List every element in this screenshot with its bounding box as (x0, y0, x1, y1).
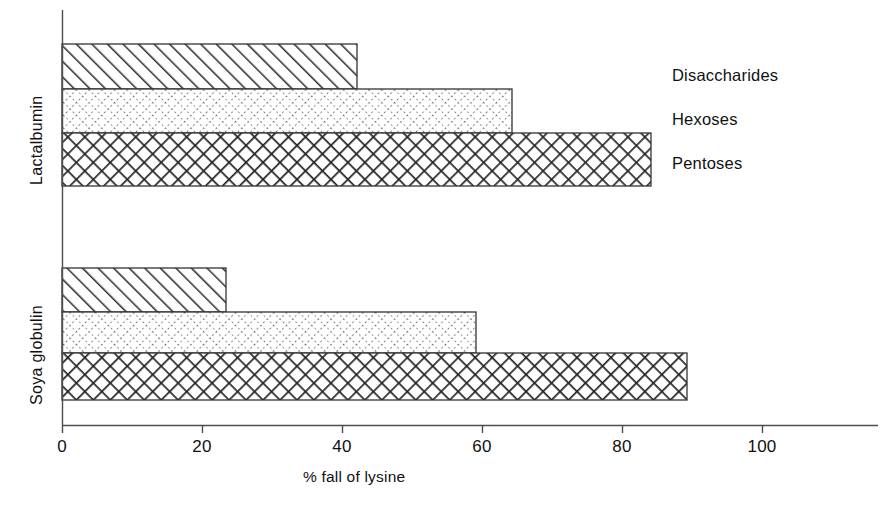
legend-item-disaccharides: Disaccharides (672, 53, 882, 97)
group-label-lactalbumin: Lactalbumin (28, 95, 46, 185)
legend-swatches (651, 58, 673, 168)
legend: Disaccharides Hexoses Pentoses (672, 53, 882, 185)
bar-chart: 0 20 40 60 80 100 % fall of lysine Lacta… (0, 0, 895, 510)
x-tick-label-80: 80 (592, 437, 652, 457)
legend-item-pentoses: Pentoses (672, 141, 882, 185)
x-tick-label-60: 60 (452, 437, 512, 457)
x-axis-title: % fall of lysine (303, 468, 405, 486)
bar-soya-globulin-pentoses (62, 353, 687, 400)
legend-label-disaccharides: Disaccharides (672, 66, 778, 85)
group-label-soya-globulin: Soya globulin (28, 305, 46, 405)
bar-soya-globulin-hexoses (62, 312, 476, 353)
x-tick-label-20: 20 (172, 437, 232, 457)
bar-lactalbumin-hexoses (62, 89, 512, 133)
legend-item-hexoses: Hexoses (672, 97, 882, 141)
x-tick-label-100: 100 (732, 437, 792, 457)
bar-lactalbumin-disaccharides (62, 44, 357, 89)
x-tick-label-0: 0 (32, 437, 92, 457)
bar-soya-globulin-disaccharides (62, 268, 226, 312)
legend-label-pentoses: Pentoses (672, 154, 742, 173)
x-tick-label-40: 40 (312, 437, 372, 457)
bar-lactalbumin-pentoses (62, 133, 651, 186)
legend-label-hexoses: Hexoses (672, 110, 738, 129)
